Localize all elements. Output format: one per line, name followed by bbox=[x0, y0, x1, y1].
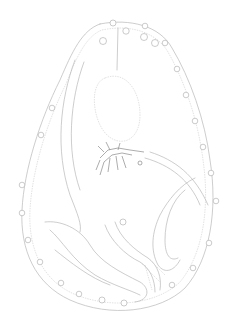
left-canal bbox=[61, 60, 81, 232]
border-beads bbox=[19, 20, 219, 306]
lower-right-band bbox=[153, 178, 195, 270]
central-oval bbox=[94, 76, 140, 141]
lower-left-band bbox=[45, 222, 147, 302]
bottom-ducts bbox=[105, 225, 155, 292]
central-organ bbox=[96, 142, 144, 175]
right-tube bbox=[150, 152, 208, 205]
specimen-drawing bbox=[0, 0, 235, 324]
top-canal bbox=[117, 28, 118, 70]
illustration bbox=[0, 0, 235, 324]
